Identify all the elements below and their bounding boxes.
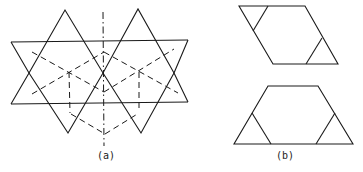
panel-a: (a) xyxy=(11,9,188,161)
panel-b: (b) xyxy=(234,6,353,161)
left-zig xyxy=(11,42,29,104)
dash-line xyxy=(71,114,105,134)
projection-lines xyxy=(32,49,178,134)
dash-line xyxy=(105,113,139,134)
corner-cut-right xyxy=(316,113,335,144)
band-bottom-edge xyxy=(11,102,188,104)
corner-cut-top-left xyxy=(253,6,268,31)
parallelogram-shape xyxy=(239,6,338,64)
dash-line xyxy=(104,52,178,93)
corner-cut-bottom-right xyxy=(306,38,322,64)
dash-line xyxy=(69,72,70,113)
right-zig xyxy=(174,40,188,102)
corner-cut-left xyxy=(252,113,271,144)
symmetry-axis xyxy=(103,12,104,146)
trapezoid-shape xyxy=(234,86,353,144)
panel-a-label: (a) xyxy=(97,150,115,161)
band-top-edge xyxy=(11,40,188,42)
panel-b-label: (b) xyxy=(276,150,294,161)
figure-canvas: (a) (b) xyxy=(0,0,363,172)
